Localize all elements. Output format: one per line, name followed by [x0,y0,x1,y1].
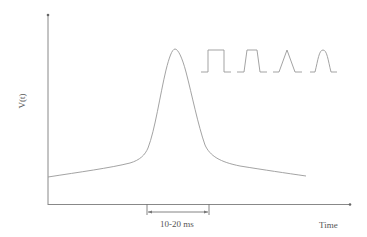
y-axis-label: V(t) [17,94,27,109]
rectangular-pulse [201,50,231,72]
pulse-diagram [0,0,367,237]
inset-pulse-shapes [201,50,337,72]
interval-arrow-right [204,211,208,214]
main-pulse-curve [48,49,306,177]
rounded-pulse [310,50,337,72]
triangular-pulse [273,50,302,72]
x-axis-label: Time [319,220,338,230]
y-axis-arrow [47,14,50,17]
interval-arrow-left [148,211,152,214]
x-axis-arrow [349,203,352,206]
trapezoidal-pulse [237,50,267,72]
interval-label: 10-20 ms [160,219,194,229]
